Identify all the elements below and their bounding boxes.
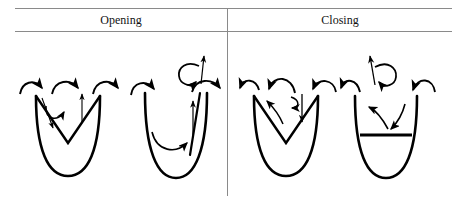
- arc-inward-right: [413, 80, 435, 92]
- arrow-up-top: [370, 56, 375, 85]
- figure-canvas: Opening Closing: [0, 0, 461, 204]
- arrow-up-top: [201, 56, 204, 84]
- arc-outward-right: [93, 82, 118, 94]
- closing-panel-left: [240, 79, 336, 176]
- arc-outward-middle: [52, 82, 78, 94]
- diagram-svg: [0, 0, 461, 204]
- arc-outward-left: [131, 83, 154, 95]
- arc-interior-sweep: [152, 132, 187, 150]
- arrow-circular-top: [375, 64, 396, 85]
- arc-inward-right: [313, 81, 336, 92]
- potential-well-curve: [355, 96, 417, 178]
- arc-inward-middle: [269, 79, 295, 93]
- arrow-curl-center: [46, 106, 64, 118]
- arc-inward-left: [240, 81, 259, 90]
- arc-outward-left: [20, 82, 42, 94]
- closing-panel-right: [341, 56, 435, 178]
- opening-panel-left: [20, 82, 118, 176]
- arc-interior-converge-right: [391, 104, 405, 129]
- inner-v-chevron: [36, 96, 100, 143]
- arc-interior-converge-left: [369, 107, 388, 129]
- arrow-circular-top: [179, 64, 199, 85]
- opening-panel-right: [131, 56, 220, 178]
- inner-v-chevron: [254, 96, 318, 143]
- arc-inward-left: [341, 81, 360, 92]
- inner-parallel-line: [190, 93, 200, 155]
- arrow-curl-center: [291, 97, 298, 108]
